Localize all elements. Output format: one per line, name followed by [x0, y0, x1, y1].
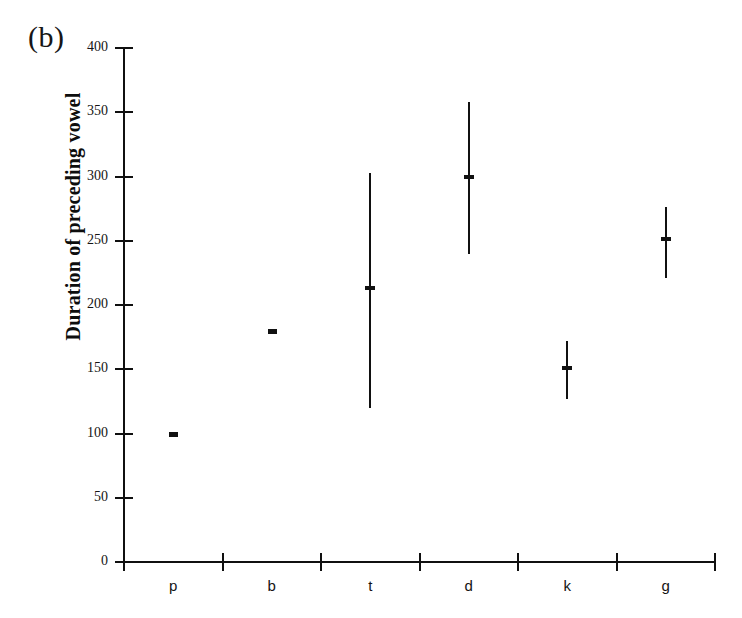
- plot-area: 050100150200250300350400 pbtdkg: [0, 0, 742, 618]
- y-tick-label-wrap: 250: [58, 233, 108, 247]
- y-tick-label-wrap: 150: [58, 361, 108, 375]
- figure-panel: (b) Duration of preceding vowel 05010015…: [0, 0, 742, 618]
- y-tick-label: 200: [62, 297, 108, 311]
- x-category-label-b: b: [242, 578, 302, 593]
- y-tick-label-wrap: 0: [58, 554, 108, 568]
- x-category-label-p: p: [143, 578, 203, 593]
- y-tick-300: [115, 176, 133, 178]
- x-tick-4: [517, 553, 519, 571]
- y-tick-200: [115, 304, 133, 306]
- y-tick-350: [115, 111, 133, 113]
- median-mark-k: [562, 366, 572, 370]
- median-mark-g: [661, 237, 671, 241]
- x-tick-2: [320, 553, 322, 571]
- y-tick-label: 0: [62, 554, 108, 568]
- x-category-label-k: k: [537, 578, 597, 593]
- x-tick-6: [714, 553, 716, 571]
- y-tick-label: 300: [62, 169, 108, 183]
- y-tick-label: 150: [62, 361, 108, 375]
- y-tick-label-wrap: 100: [58, 426, 108, 440]
- y-tick-label: 50: [62, 490, 108, 504]
- point-mark-b: [268, 329, 277, 334]
- y-tick-label: 250: [62, 233, 108, 247]
- y-tick-label-wrap: 50: [58, 490, 108, 504]
- y-tick-label-wrap: 200: [58, 297, 108, 311]
- y-tick-label: 400: [62, 40, 108, 54]
- y-tick-label-wrap: 350: [58, 104, 108, 118]
- range-line-g: [665, 207, 667, 278]
- y-tick-150: [115, 368, 133, 370]
- x-tick-3: [419, 553, 421, 571]
- y-tick-50: [115, 497, 133, 499]
- x-tick-5: [616, 553, 618, 571]
- x-category-label-t: t: [340, 578, 400, 593]
- point-mark-p: [169, 432, 178, 437]
- y-tick-label: 100: [62, 426, 108, 440]
- y-tick-label-wrap: 400: [58, 40, 108, 54]
- x-tick-0: [123, 553, 125, 571]
- x-category-label-d: d: [439, 578, 499, 593]
- y-tick-250: [115, 240, 133, 242]
- y-tick-400: [115, 47, 133, 49]
- x-tick-1: [222, 553, 224, 571]
- y-tick-label: 350: [62, 104, 108, 118]
- median-mark-t: [365, 286, 375, 290]
- median-mark-d: [464, 175, 474, 179]
- y-tick-100: [115, 433, 133, 435]
- y-tick-label-wrap: 300: [58, 169, 108, 183]
- x-category-label-g: g: [636, 578, 696, 593]
